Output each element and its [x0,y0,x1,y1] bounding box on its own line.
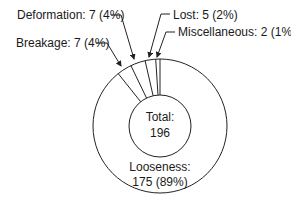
donut-chart: Deformation: 7 (4%) Breakage: 7 (4%) Los… [0,0,291,200]
label-miscellaneous: Miscellaneous: 2 (1%) [178,25,291,39]
label-deformation: Deformation: 7 (4%) [17,8,124,22]
center-label-total: 196 [150,126,170,140]
center-label-title: Total: [146,110,175,124]
slice-divider-1 [156,59,158,95]
leader-miscellaneous [157,32,175,57]
label-looseness-value: 175 (89%) [132,175,187,189]
slice-divider-2 [145,61,153,96]
label-lost: Lost: 5 (2%) [173,8,238,22]
label-looseness-name: Looseness: [129,160,190,174]
label-breakage: Breakage: 7 (4%) [16,36,109,50]
